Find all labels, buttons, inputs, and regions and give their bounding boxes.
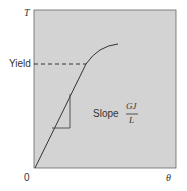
slope-label: Slope [93,109,119,119]
x-axis-label: θ [166,173,171,183]
plot-area [34,10,176,168]
slope-denominator: L [129,116,134,125]
y-axis-label: T [24,8,30,18]
torque-twist-diagram [0,0,187,191]
yield-label: Yield [9,59,31,69]
origin-label: 0 [24,173,30,183]
slope-numerator: GJ [126,102,137,111]
